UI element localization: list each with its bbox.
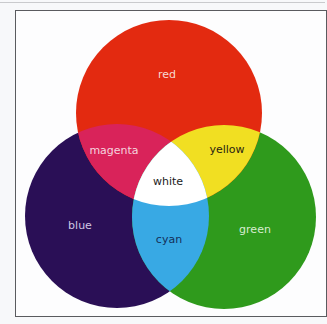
label-blue: blue <box>68 219 92 232</box>
label-yellow: yellow <box>209 143 244 156</box>
label-green: green <box>239 223 271 236</box>
label-white: white <box>153 175 183 188</box>
label-magenta: magenta <box>89 144 138 157</box>
label-cyan: cyan <box>156 233 182 246</box>
label-red: red <box>158 68 176 81</box>
